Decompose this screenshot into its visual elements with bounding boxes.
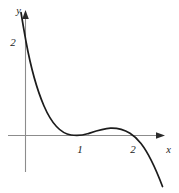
x-axis-label: x <box>165 144 171 155</box>
y-tick-label-2: 2 <box>10 36 16 48</box>
function-curve <box>21 13 163 187</box>
y-axis-label: y <box>15 5 21 16</box>
x-tick-label-2: 2 <box>130 143 136 155</box>
y-axis-arrowhead <box>22 10 29 19</box>
graph-figure: 2 1 2 y x <box>0 0 179 193</box>
graph-svg: 2 1 2 y x <box>0 0 179 193</box>
x-tick-label-1: 1 <box>77 143 83 155</box>
x-axis-arrowhead <box>156 132 165 139</box>
